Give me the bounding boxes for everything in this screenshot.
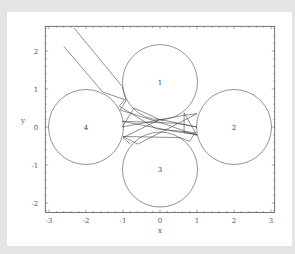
y-tick-label: -1	[31, 162, 38, 170]
circle-label-2: 2	[232, 124, 236, 132]
y-axis-label: y	[20, 117, 25, 125]
x-axis-label: x	[158, 227, 162, 235]
x-tick-labels: -3-2-10123	[46, 217, 274, 225]
y-tick-label: 0	[34, 124, 38, 132]
circular-scatterers: 1234	[49, 45, 272, 207]
x-tick-label: 2	[232, 217, 236, 225]
circle-label-3: 3	[158, 166, 162, 174]
circle-label-4: 4	[84, 124, 89, 132]
x-tick-label: 0	[158, 217, 162, 225]
circle-label-1: 1	[158, 79, 162, 87]
x-tick-label: 3	[269, 217, 273, 225]
trajectory-1	[74, 28, 197, 144]
y-tick-label: -2	[31, 200, 38, 208]
y-tick-labels: -2-1012	[31, 48, 38, 208]
x-tick-label: -2	[83, 217, 90, 225]
y-tick-label: 1	[34, 86, 38, 94]
x-tick-label: -1	[120, 217, 127, 225]
y-tick-label: 2	[34, 48, 38, 56]
x-tick-label: 1	[195, 217, 199, 225]
scattering-plot: -3-2-10123 -2-1012 1234 x y	[0, 0, 295, 254]
x-tick-label: -3	[46, 217, 53, 225]
